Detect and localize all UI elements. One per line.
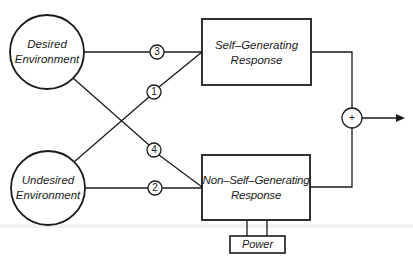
desired-line1: Desired (10, 37, 84, 52)
self-generating-line1: Self–Generating (203, 38, 310, 53)
sum-plus-icon: + (342, 108, 362, 128)
self-generating-line2: Response (203, 53, 310, 68)
desired-line2: Environment (10, 52, 84, 67)
undesired-line2: Environment (11, 188, 85, 203)
path-number-4: 4 (147, 143, 161, 157)
output-arrow-icon (396, 114, 405, 122)
desired-environment-label: Desired Environment (10, 37, 84, 67)
diagram-canvas: Desired Environment Undesired Environmen… (0, 0, 413, 263)
non-self-generating-line1: Non–Self–Generating (200, 173, 312, 188)
path-number-1: 1 (147, 85, 161, 99)
non-self-generating-label: Non–Self–Generating Response (200, 173, 312, 203)
path-number-2: 2 (148, 181, 162, 195)
undesired-line1: Undesired (11, 173, 85, 188)
undesired-environment-label: Undesired Environment (11, 173, 85, 203)
power-label: Power (230, 237, 285, 252)
path-number-3: 3 (150, 45, 164, 59)
self-generating-label: Self–Generating Response (203, 38, 310, 68)
non-self-generating-line2: Response (200, 188, 312, 203)
